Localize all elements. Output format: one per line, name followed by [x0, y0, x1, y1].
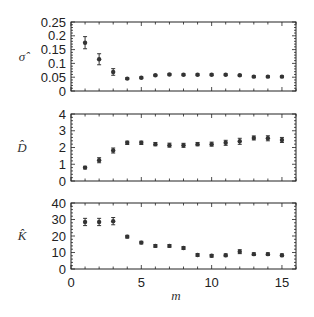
data-point: [97, 54, 101, 65]
plot-frame: [71, 22, 296, 91]
data-point: [252, 136, 256, 140]
y-tick-label: 0: [59, 174, 66, 189]
y-axis-label: D̂: [16, 140, 27, 155]
y-tick-label: 1: [59, 157, 66, 172]
data-point: [111, 69, 115, 76]
data-point: [209, 254, 213, 258]
data-point: [209, 142, 213, 146]
data-point: [195, 253, 199, 257]
data-point: [195, 142, 199, 146]
y-tick-label: 10: [52, 245, 66, 260]
data-point: [266, 136, 270, 141]
y-tick-label: 0.15: [41, 42, 66, 57]
data-point: [111, 218, 115, 225]
x-tick-label: 0: [67, 275, 74, 290]
data-point: [139, 240, 143, 244]
data-point: [209, 73, 213, 77]
y-tick-label: 0.05: [41, 70, 66, 85]
y-tick-label: 30: [52, 212, 66, 227]
data-point: [238, 138, 242, 144]
data-point: [139, 141, 143, 145]
data-point: [139, 76, 143, 80]
data-point: [83, 165, 87, 169]
data-point: [181, 246, 185, 250]
y-tick-label: 0.2: [48, 28, 66, 43]
data-point: [181, 143, 185, 147]
data-point: [153, 142, 157, 146]
data-point: [167, 244, 171, 248]
data-point: [280, 137, 284, 142]
data-point: [195, 73, 199, 77]
data-point: [181, 73, 185, 77]
x-tick-label: 10: [204, 275, 218, 290]
y-axis-label: K̂: [17, 228, 28, 243]
data-point: [252, 252, 256, 256]
y-tick-label: 2: [59, 140, 66, 155]
data-point: [223, 140, 227, 145]
data-point: [83, 218, 87, 225]
data-point: [153, 244, 157, 248]
data-point: [238, 249, 242, 253]
y-tick-label: 0.1: [48, 56, 66, 71]
x-tick-label: 5: [138, 275, 145, 290]
data-point: [280, 253, 284, 257]
y-tick-label: 4: [59, 107, 66, 122]
data-point: [280, 74, 284, 78]
data-point: [167, 143, 171, 147]
data-point: [223, 253, 227, 257]
data-point: [111, 148, 115, 153]
y-tick-label: 40: [52, 196, 66, 211]
data-point: [266, 74, 270, 78]
y-tick-label: 0: [59, 262, 66, 277]
figure: 00.050.10.150.20.25σ̂ 01234D̂ 010203040K…: [0, 0, 314, 317]
data-point: [238, 73, 242, 77]
data-point: [125, 76, 129, 80]
y-tick-label: 0: [59, 84, 66, 99]
data-point: [266, 252, 270, 256]
data-point: [167, 72, 171, 76]
data-point: [125, 141, 129, 145]
data-point: [97, 218, 101, 225]
data-point: [252, 74, 256, 78]
data-point: [83, 37, 87, 49]
y-tick-label: 3: [59, 123, 66, 138]
y-tick-label: 20: [52, 229, 66, 244]
x-tick-label: 15: [275, 275, 289, 290]
sigma-panel: 00.050.10.150.20.25σ̂: [19, 15, 296, 99]
y-tick-label: 0.25: [41, 15, 66, 30]
data-point: [153, 73, 157, 77]
data-point: [223, 73, 227, 77]
x-axis-label: m: [171, 288, 180, 303]
d-panel: 01234D̂: [16, 107, 296, 189]
plot-frame: [71, 203, 296, 269]
y-axis-label: σ̂: [19, 49, 30, 64]
data-point: [125, 234, 129, 238]
data-point: [97, 158, 101, 163]
k-panel: 010203040K̂051015: [17, 196, 296, 291]
